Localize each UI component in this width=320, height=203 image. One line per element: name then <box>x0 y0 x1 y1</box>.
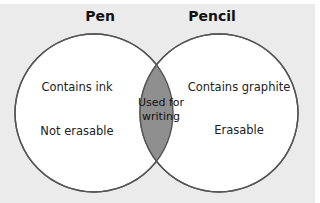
intersection-line-2: writing <box>138 110 184 124</box>
pencil-item-1: Contains graphite <box>188 80 290 94</box>
pen-item-1: Contains ink <box>41 80 112 94</box>
pen-item-2: Not erasable <box>40 124 113 138</box>
intersection-label: Used for writing <box>138 96 184 124</box>
intersection-line-1: Used for <box>138 96 184 110</box>
pen-title: Pen <box>85 8 115 24</box>
pencil-item-2: Erasable <box>214 123 264 137</box>
pencil-title: Pencil <box>188 8 236 24</box>
